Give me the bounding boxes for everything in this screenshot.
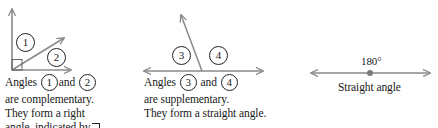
caption-line-4: angle, indicated by. bbox=[5, 120, 103, 128]
caption-line-1: Angles 1and 2 bbox=[5, 75, 103, 92]
straight-angle-caption: Straight angle bbox=[338, 80, 401, 94]
vertex-dot bbox=[367, 70, 373, 76]
caption-line-3: They form a straight angle. bbox=[144, 106, 266, 120]
inline-angle-4: 4 bbox=[221, 74, 238, 91]
caption-angles-word: Angles bbox=[144, 76, 176, 88]
caption-line-2: are supplementary. bbox=[144, 92, 266, 106]
supplementary-angle-figure bbox=[144, 15, 263, 71]
inline-angle-2: 2 bbox=[79, 74, 96, 91]
caption-and-word: and bbox=[201, 76, 217, 88]
straight-angle-measure: 180° bbox=[361, 54, 382, 68]
angle-3-label: 3 bbox=[172, 46, 191, 65]
caption-and-word: and bbox=[59, 76, 75, 88]
caption-angles-word: Angles bbox=[5, 76, 37, 88]
caption-line-2: are complementary. bbox=[5, 92, 103, 106]
complementary-caption: Angles 1and 2 are complementary. They fo… bbox=[5, 75, 103, 128]
caption-line-4-period: . bbox=[100, 121, 103, 128]
inline-angle-3: 3 bbox=[180, 74, 197, 91]
angle-2-label: 2 bbox=[47, 48, 66, 67]
straight-angle-figure bbox=[311, 70, 430, 76]
inline-angle-1: 1 bbox=[41, 74, 58, 91]
caption-line-3: They form a right bbox=[5, 106, 103, 120]
caption-line-1: Angles 3 and 4 bbox=[144, 75, 266, 92]
supplementary-caption: Angles 3 and 4 are supplementary. They f… bbox=[144, 75, 266, 120]
caption-line-4-text: angle, indicated by bbox=[5, 121, 90, 128]
angle-1-label: 1 bbox=[16, 33, 35, 52]
angle-4-label: 4 bbox=[209, 46, 228, 65]
